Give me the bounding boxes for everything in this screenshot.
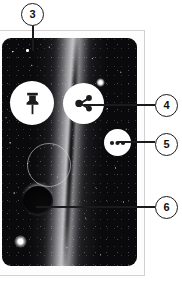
dark-spot — [97, 66, 101, 70]
callout-6[interactable]: 6 — [155, 196, 178, 219]
callout-4[interactable]: 4 — [155, 94, 178, 117]
callout-leader-3 — [32, 25, 34, 51]
callout-leader-5 — [117, 141, 155, 143]
pin-icon — [23, 92, 42, 115]
callout-leader-4 — [84, 104, 155, 106]
star-glow-icon — [14, 235, 27, 248]
star-glow-icon — [96, 78, 105, 87]
callout-leader-6 — [36, 206, 155, 208]
figure-root: 3 4 5 6 — [0, 0, 182, 283]
white-dot-icon — [26, 49, 29, 52]
circle-outline-icon — [27, 143, 71, 187]
callout-3[interactable]: 3 — [21, 3, 44, 26]
callout-5[interactable]: 5 — [155, 133, 178, 156]
planet-icon[interactable] — [23, 186, 53, 216]
pin-button[interactable] — [10, 81, 54, 125]
